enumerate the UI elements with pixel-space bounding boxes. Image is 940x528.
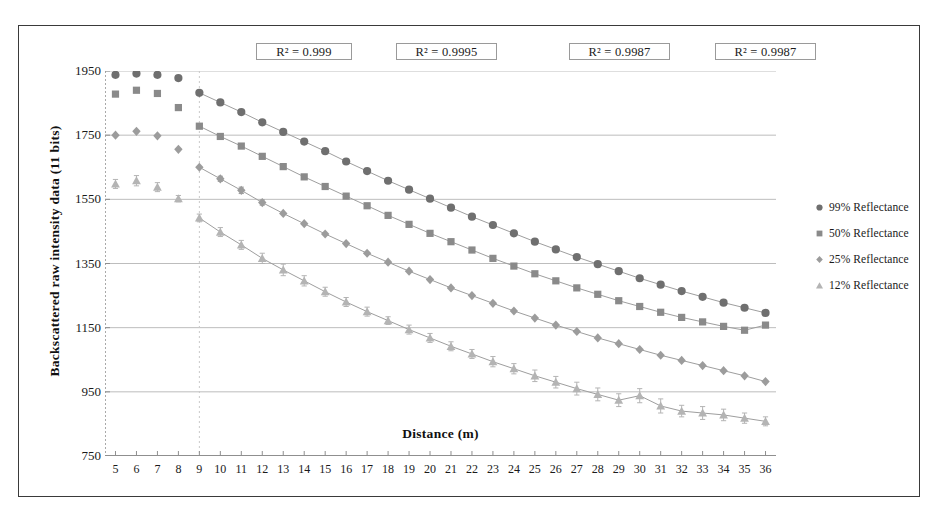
x-tick-label: 34	[718, 462, 730, 477]
x-axis-tick-labels: 5678910111213141516171819202122232425262…	[105, 462, 776, 480]
y-tick-label: 1350	[75, 256, 101, 272]
data-point-diamond	[384, 258, 392, 267]
x-tick-label: 35	[739, 462, 751, 477]
data-point-diamond	[279, 209, 287, 218]
data-point-square	[531, 270, 538, 277]
y-axis-tick-labels: 75095011501350155017501950	[45, 71, 101, 456]
x-tick-label: 22	[466, 462, 478, 477]
r2-label-2: R² = 0.9995	[396, 43, 497, 60]
data-point-square	[447, 238, 454, 245]
data-point-diamond	[510, 306, 518, 315]
data-point-circle	[531, 238, 539, 246]
data-point-square	[364, 202, 371, 209]
x-tick-label: 27	[571, 462, 583, 477]
x-tick-label: 19	[403, 462, 415, 477]
data-point-circle	[153, 71, 161, 79]
trend-line	[199, 93, 765, 313]
x-tick-label: 28	[592, 462, 604, 477]
x-tick-label: 12	[256, 462, 268, 477]
data-point-diamond	[468, 291, 476, 300]
x-tick-label: 5	[112, 462, 118, 477]
data-point-triangle	[132, 176, 141, 184]
data-point-square	[259, 153, 266, 160]
data-point-square	[741, 327, 748, 334]
data-point-diamond	[426, 275, 434, 284]
data-point-triangle	[111, 180, 120, 188]
data-point-circle	[761, 309, 769, 317]
x-tick-label: 20	[424, 462, 436, 477]
x-tick-label: 30	[634, 462, 646, 477]
data-point-square	[405, 221, 412, 228]
triangle-marker-icon	[814, 280, 825, 291]
data-point-circle	[489, 221, 497, 229]
x-tick-label: 15	[319, 462, 331, 477]
x-tick-label: 25	[529, 462, 541, 477]
data-point-triangle	[237, 240, 246, 248]
x-tick-label: 11	[236, 462, 248, 477]
data-point-square	[238, 142, 245, 149]
data-point-circle	[719, 299, 727, 307]
data-point-diamond	[195, 163, 203, 172]
data-point-triangle	[195, 214, 204, 222]
legend-item-1[interactable]: 99% Reflectance	[814, 194, 924, 220]
data-point-circle	[321, 147, 329, 155]
data-point-circle	[594, 260, 602, 268]
data-point-circle	[342, 157, 350, 165]
legend-item-2[interactable]: 50% Reflectance	[814, 220, 924, 246]
data-point-square	[657, 309, 664, 316]
data-point-square	[133, 87, 140, 94]
data-point-circle	[111, 71, 119, 79]
data-point-triangle	[572, 384, 581, 392]
data-point-square	[196, 123, 203, 130]
data-point-triangle	[174, 194, 183, 202]
data-point-square	[426, 230, 433, 237]
legend-item-3[interactable]: 25% Reflectance	[814, 246, 924, 272]
data-point-triangle	[530, 371, 539, 379]
data-point-circle	[573, 253, 581, 261]
data-point-square	[552, 277, 559, 284]
x-tick-label: 21	[445, 462, 457, 477]
data-point-diamond	[321, 229, 329, 238]
y-tick-label: 1550	[75, 191, 101, 207]
data-point-square	[301, 173, 308, 180]
y-tick-label: 1950	[75, 63, 101, 79]
data-point-triangle	[551, 378, 560, 386]
x-tick-label: 6	[133, 462, 139, 477]
data-point-diamond	[132, 127, 140, 136]
data-point-circle	[552, 245, 560, 253]
data-point-diamond	[153, 131, 161, 140]
data-point-diamond	[594, 333, 602, 342]
data-point-triangle	[656, 402, 665, 410]
data-point-diamond	[216, 174, 224, 183]
figure-frame: R² = 0.999R² = 0.9995R² = 0.9987R² = 0.9…	[18, 25, 920, 497]
legend-item-4[interactable]: 12% Reflectance	[814, 272, 924, 298]
data-point-square	[489, 255, 496, 262]
plot-area	[105, 71, 776, 456]
data-point-circle	[363, 167, 371, 175]
data-point-square	[280, 163, 287, 170]
x-tick-label: 17	[361, 462, 373, 477]
x-tick-label: 29	[613, 462, 625, 477]
r2-label-4: R² = 0.9987	[715, 43, 816, 60]
data-point-triangle	[405, 325, 414, 333]
data-point-square	[343, 193, 350, 200]
data-point-square	[636, 303, 643, 310]
data-point-diamond	[405, 267, 413, 276]
data-point-diamond	[698, 361, 706, 370]
data-point-circle	[279, 128, 287, 136]
data-point-triangle	[426, 334, 435, 342]
x-tick-label: 24	[508, 462, 520, 477]
data-point-triangle	[509, 364, 518, 372]
series-2	[112, 87, 769, 334]
series-1	[111, 71, 769, 317]
data-point-circle	[447, 204, 455, 212]
data-point-diamond	[740, 371, 748, 380]
series-3	[111, 127, 769, 386]
data-point-circle	[174, 74, 182, 82]
x-tick-label: 26	[550, 462, 562, 477]
data-point-circle	[237, 108, 245, 116]
data-point-circle	[216, 98, 224, 106]
legend-item-label: 50% Reflectance	[829, 227, 909, 239]
data-point-triangle	[489, 357, 498, 365]
x-tick-label: 18	[382, 462, 394, 477]
